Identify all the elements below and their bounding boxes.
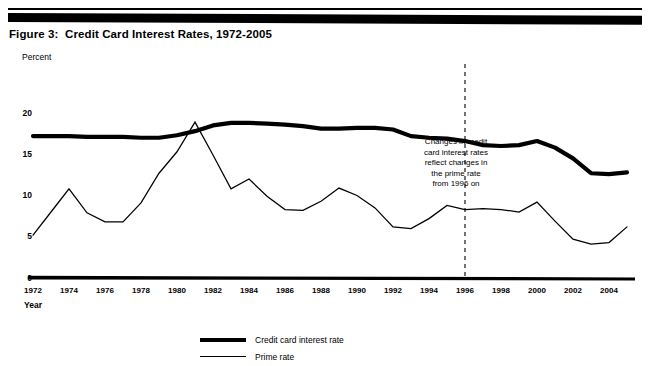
x-tick-label-1974: 1974 (52, 286, 86, 295)
x-tick-label-2004: 2004 (592, 286, 626, 295)
y-tick-label-5: 5 (14, 231, 32, 241)
header-rule-thick (8, 13, 642, 25)
x-tick-label-1972: 1972 (16, 286, 50, 295)
x-tick-label-1976: 1976 (88, 286, 122, 295)
legend-swatch-credit-card-icon (200, 338, 246, 342)
annotation-line-3: reflect changes in (394, 158, 518, 169)
x-tick-label-1994: 1994 (412, 286, 446, 295)
x-tick-label-1988: 1988 (304, 286, 338, 295)
series-line-prime-rate (33, 122, 627, 244)
legend-swatch-prime-rate-icon (200, 356, 246, 357)
x-tick-label-1978: 1978 (124, 286, 158, 295)
y-axis-caption: Percent (22, 52, 51, 62)
x-tick-label-1986: 1986 (268, 286, 302, 295)
legend-label-prime-rate: Prime rate (255, 352, 294, 362)
x-tick-label-1990: 1990 (340, 286, 374, 295)
x-tick-label-1996: 1996 (448, 286, 482, 295)
legend-label-credit-card: Credit card interest rate (255, 335, 344, 345)
x-tick-label-1982: 1982 (196, 286, 230, 295)
x-axis-caption: Year (24, 300, 42, 310)
page-title: Figure 3: Credit Card Interest Rates, 19… (9, 28, 272, 40)
x-tick-label-2002: 2002 (556, 286, 590, 295)
axis-layer (28, 276, 635, 281)
y-tick-label-10: 10 (14, 190, 32, 200)
annotation-line-2: card interest rates (394, 148, 518, 159)
legend-item-credit-card: Credit card interest rate (200, 331, 460, 348)
y-tick-label-20: 20 (14, 108, 32, 118)
chart-annotation: Changes in credit card interest rates re… (394, 137, 518, 190)
x-tick-label-1992: 1992 (376, 286, 410, 295)
y-tick-label-0: 0 (14, 273, 32, 283)
chart-plot-area (0, 0, 650, 366)
x-axis-line (28, 276, 635, 281)
x-tick-label-1980: 1980 (160, 286, 194, 295)
annotation-line-5: from 1996 on (394, 179, 518, 190)
x-tick-label-1998: 1998 (484, 286, 518, 295)
annotation-line-4: the prime rate (394, 169, 518, 180)
header-rule-thin (8, 8, 642, 10)
series-line-credit-card-interest-rate (33, 123, 627, 174)
x-tick-label-2000: 2000 (520, 286, 554, 295)
x-tick-label-1984: 1984 (232, 286, 266, 295)
legend-item-prime-rate: Prime rate (200, 348, 460, 365)
y-tick-label-15: 15 (14, 149, 32, 159)
series-layer (33, 122, 627, 244)
chart-legend: Credit card interest rate Prime rate (200, 331, 460, 365)
annotation-line-1: Changes in credit (394, 137, 518, 148)
